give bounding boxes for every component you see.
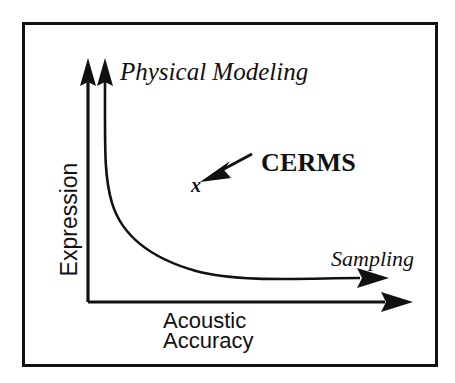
y-axis-arrowhead [80, 58, 96, 86]
label-cerms: CERMS [261, 150, 356, 176]
tradeoff-curve [105, 80, 360, 279]
label-sampling: Sampling [331, 248, 414, 270]
curve-top-arrowhead [97, 58, 113, 86]
point-marker-x: x [191, 175, 201, 195]
label-physical-modeling: Physical Modeling [120, 59, 308, 84]
figure-canvas: Physical Modeling CERMS x Sampling Expre… [0, 0, 455, 383]
cerms-callout-line [222, 154, 252, 170]
x-axis-label: AcousticAccuracy [163, 311, 253, 351]
cerms-callout-arrowhead [200, 161, 231, 182]
x-axis-arrowhead [381, 292, 413, 312]
x-axis-label-line2: Accuracy [163, 331, 253, 351]
y-axis-label: Expression [58, 145, 81, 295]
curve-right-arrowhead [357, 268, 389, 288]
